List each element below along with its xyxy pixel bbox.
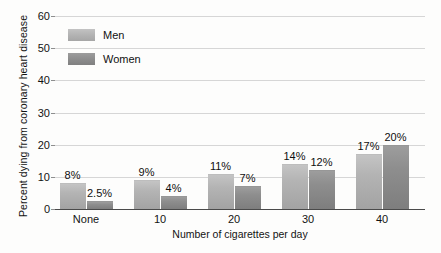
x-axis-tick-label: 10: [154, 213, 166, 225]
y-axis-tick-label: 50: [38, 42, 50, 54]
legend-label-women: Women: [103, 53, 141, 65]
x-axis-title: Number of cigarettes per day: [55, 228, 425, 240]
bar-women-10: [161, 196, 187, 209]
legend-item-women: Women: [68, 52, 141, 65]
bar-chart: Percent dying from coronary heart diseas…: [0, 0, 441, 253]
y-axis-tick-label: 10: [38, 171, 50, 183]
bar-men-none: [60, 183, 86, 209]
y-axis-title: Percent dying from coronary heart diseas…: [17, 11, 29, 221]
x-axis-tick-label: 30: [302, 213, 314, 225]
bar-value-label: 4%: [166, 182, 182, 194]
bar-women-20: [235, 186, 261, 209]
bar-value-label: 20%: [384, 131, 406, 143]
legend-item-men: Men: [68, 28, 141, 41]
bar-men-20: [208, 174, 234, 209]
x-axis-tick-label: None: [73, 213, 99, 225]
bar-value-label: 11%: [210, 160, 231, 172]
bar-value-label: 17%: [357, 140, 379, 152]
bar-value-label: 2.5%: [87, 187, 112, 199]
bar-women-30: [309, 170, 335, 209]
bar-value-label: 14%: [283, 150, 305, 162]
x-axis-tick-label: 20: [228, 213, 240, 225]
bar-men-30: [282, 164, 308, 209]
bar-value-label: 8%: [65, 169, 81, 181]
y-axis-tick-label: 40: [38, 74, 50, 86]
y-axis-tick-label: 20: [38, 139, 50, 151]
bar-men-40: [356, 154, 382, 209]
legend-label-men: Men: [103, 29, 124, 41]
legend-swatch-men-icon: [68, 29, 95, 41]
bar-value-label: 7%: [240, 172, 256, 184]
bar-men-10: [134, 180, 160, 209]
x-axis-tick-label: 40: [376, 213, 388, 225]
legend: Men Women: [68, 28, 141, 76]
bar-value-label: 9%: [139, 166, 155, 178]
x-axis-baseline: [55, 209, 425, 210]
bar-value-label: 12%: [310, 156, 332, 168]
y-axis-tick-mark: [51, 209, 55, 210]
bar-women-none: [87, 201, 113, 209]
y-axis-tick-label: 30: [38, 107, 50, 119]
y-axis-tick-label: 60: [38, 10, 50, 22]
legend-swatch-women-icon: [68, 53, 95, 65]
y-axis-tick-label: 0: [44, 203, 50, 215]
bar-women-40: [383, 145, 409, 209]
